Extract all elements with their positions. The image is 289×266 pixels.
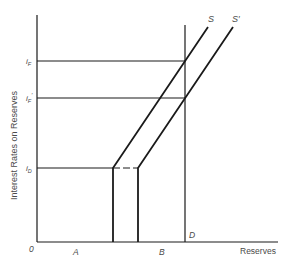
label-iF-prime: iF′ [26,92,33,104]
x-axis-title: Reserves [240,246,276,256]
label-d: D [189,230,195,240]
origin-label: 0 [29,244,34,254]
label-s-prime: S′ [232,14,240,24]
label-s: S [208,14,214,24]
label-iD: iD [26,164,32,174]
label-b: B [159,247,165,257]
label-iF: iF [26,57,32,67]
label-a: A [72,247,79,257]
reserves-diagram: Interest Rates on Reserves iF iF′ iD S S… [0,0,289,266]
y-axis-title: Interest Rates on Reserves [9,90,19,200]
